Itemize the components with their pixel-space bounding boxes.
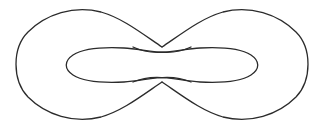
canvas-background	[0, 0, 324, 130]
figure-canvas	[0, 0, 324, 130]
figure-eight-drawing	[0, 0, 324, 130]
